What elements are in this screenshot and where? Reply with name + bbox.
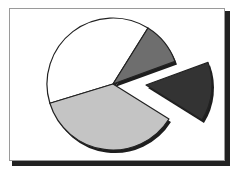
- pie-chart: [0, 0, 236, 171]
